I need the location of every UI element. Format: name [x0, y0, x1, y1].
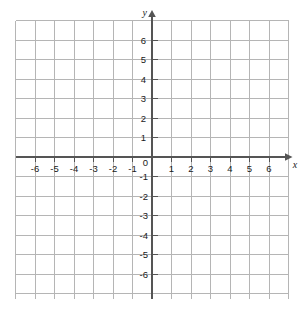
x-axis-label--6: -6	[31, 163, 39, 174]
x-axis-label--1: -1	[128, 163, 136, 174]
y-axis-label--4: -4	[140, 230, 148, 241]
coordinate-plane-svg: -6 -5 -4 -3 -2 -1 1 2 3 4 5 6 6 5 4 3 2 …	[0, 0, 303, 310]
coordinate-grid-figure: -6 -5 -4 -3 -2 -1 1 2 3 4 5 6 6 5 4 3 2 …	[0, 0, 303, 310]
y-axis-name: y	[142, 7, 148, 18]
y-axis-label-1: 1	[141, 132, 146, 143]
y-axis-label--1: -1	[140, 171, 148, 182]
y-axis-label-6: 6	[141, 35, 146, 46]
y-axis-label-3: 3	[141, 93, 146, 104]
x-axis-label--5: -5	[50, 163, 58, 174]
y-axis-label-2: 2	[141, 113, 146, 124]
x-axis-label-2: 2	[188, 163, 193, 174]
y-axis-label--3: -3	[140, 210, 148, 221]
y-axis-label-4: 4	[141, 74, 146, 85]
x-axis-name: x	[292, 159, 298, 170]
y-axis-label--6: -6	[140, 269, 148, 280]
x-axis-label-1: 1	[169, 163, 174, 174]
y-axis-label--5: -5	[140, 249, 148, 260]
x-axis-label-5: 5	[247, 163, 252, 174]
x-axis-label--3: -3	[89, 163, 97, 174]
x-axis-label--4: -4	[70, 163, 78, 174]
x-axis-label-6: 6	[266, 163, 271, 174]
x-axis-label-3: 3	[208, 163, 213, 174]
x-axis-label--2: -2	[109, 163, 117, 174]
y-axis-label-5: 5	[141, 54, 146, 65]
x-axis-label-4: 4	[227, 163, 232, 174]
origin-label: 0	[143, 157, 148, 168]
y-axis-label--2: -2	[140, 191, 148, 202]
